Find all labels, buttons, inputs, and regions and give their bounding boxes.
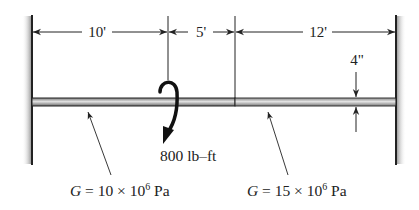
- modulus-value: = 10 × 10: [81, 182, 145, 199]
- modulus-value: = 15 × 10: [258, 182, 322, 199]
- shaft: [32, 98, 396, 106]
- left-wall-hatch: [22, 16, 32, 164]
- torque-label: 800 lb–ft: [160, 147, 217, 164]
- modulus-unit: Pa: [150, 182, 169, 199]
- dimension-diameter: 4": [350, 52, 364, 132]
- dimension-10ft: 10': [33, 24, 167, 40]
- shear-modulus-symbol: G: [70, 182, 81, 199]
- torque-arc: [160, 82, 177, 132]
- dim-label-5ft: 5': [196, 24, 207, 40]
- torque-arrow: 800 lb–ft: [160, 82, 217, 164]
- right-wall-support: [396, 15, 406, 165]
- shaft-segment-right: [235, 98, 396, 106]
- dim-label-diameter: 4": [350, 52, 364, 68]
- dim-label-10ft: 10': [88, 24, 106, 40]
- material-label-right: G = 15 × 106 Pa: [247, 181, 347, 199]
- torque-arrowhead: [163, 126, 174, 144]
- left-wall-support: [22, 15, 32, 165]
- shaft-segment-left: [32, 98, 235, 106]
- shear-modulus-symbol: G: [247, 182, 258, 199]
- right-wall-hatch: [396, 16, 406, 164]
- dimension-5ft: 5': [169, 24, 234, 40]
- leader-line-left: [88, 112, 111, 175]
- modulus-unit: Pa: [327, 182, 346, 199]
- leader-line-right: [268, 112, 288, 175]
- shaft-diagram: 10' 5' 12' 4" 800 lb–ft G = 10 × 106 Pa …: [0, 0, 419, 210]
- material-label-left: G = 10 × 106 Pa: [70, 181, 170, 199]
- dim-label-12ft: 12': [309, 24, 327, 40]
- dimension-12ft: 12': [236, 24, 395, 40]
